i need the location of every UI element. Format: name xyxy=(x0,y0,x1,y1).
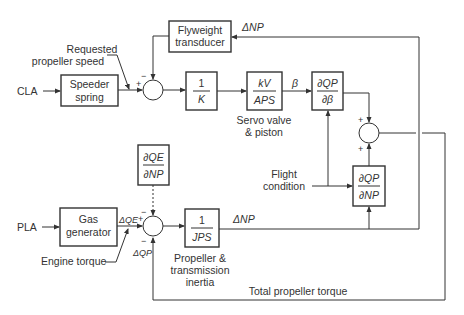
servo-valve-block: kV APS xyxy=(247,72,282,110)
speeder-spring-block: Speeder spring xyxy=(61,75,118,106)
propeller-control-block-diagram: CLA Speeder spring Requested propeller s… xyxy=(0,0,464,315)
svg-text:inertia: inertia xyxy=(186,276,215,288)
svg-text:propeller speed: propeller speed xyxy=(32,55,105,67)
svg-text:∂NP: ∂NP xyxy=(144,168,164,180)
gas-generator-block: Gas generator xyxy=(60,208,117,246)
delta-qe-label: ΔQE xyxy=(118,215,139,225)
dqp-dbeta-block: ∂QP ∂β xyxy=(312,72,343,110)
svg-text:& piston: & piston xyxy=(245,126,283,138)
servo-caption: Servo valve xyxy=(237,114,292,126)
svg-text:transmission: transmission xyxy=(171,264,230,276)
minus-sign: − xyxy=(141,71,146,81)
svg-text:∂QP: ∂QP xyxy=(359,172,379,184)
svg-text:generator: generator xyxy=(66,226,111,238)
svg-text:Flyweight: Flyweight xyxy=(178,24,222,36)
inverse-k-block: 1 K xyxy=(186,72,217,110)
svg-text:1: 1 xyxy=(199,77,205,89)
propeller-torque-summing-junction xyxy=(359,123,379,143)
inertia-block: 1 JPS xyxy=(185,209,219,247)
svg-text:∂NP: ∂NP xyxy=(359,189,379,201)
delta-qp-label: ΔQP xyxy=(132,248,152,258)
inertia-caption: Propeller & xyxy=(174,252,226,264)
svg-text:∂QE: ∂QE xyxy=(143,151,164,163)
svg-text:APS: APS xyxy=(253,94,275,106)
torque-summing-junction xyxy=(143,216,163,236)
flight-condition-label: Flight xyxy=(271,168,297,180)
minus-sign: − xyxy=(141,236,146,246)
svg-text:K: K xyxy=(198,93,206,105)
flyweight-feedback-arrow xyxy=(153,36,169,79)
plus-sign: + xyxy=(358,144,363,154)
svg-text:JPS: JPS xyxy=(191,231,211,243)
svg-text:Speeder: Speeder xyxy=(70,78,110,90)
svg-text:∂β: ∂β xyxy=(322,93,333,105)
dqp-dnp-block: ∂QP ∂NP xyxy=(353,166,385,206)
requested-speed-label: Requested xyxy=(67,43,118,55)
svg-text:condition: condition xyxy=(263,180,305,192)
plus-sign: + xyxy=(358,115,363,125)
dqp-dbeta-output-arrow xyxy=(343,93,369,122)
svg-text:Gas: Gas xyxy=(79,213,98,225)
engine-torque-label: Engine torque xyxy=(41,255,107,267)
pla-input-label: PLA xyxy=(17,221,37,233)
svg-text:kV: kV xyxy=(258,77,271,89)
cla-input-label: CLA xyxy=(17,85,37,97)
beta-label: β xyxy=(291,77,298,89)
svg-text:transducer: transducer xyxy=(175,36,225,48)
svg-text:spring: spring xyxy=(75,91,104,103)
minus-sign: − xyxy=(141,207,146,217)
delta-np-bottom-label: ΔNP xyxy=(232,213,255,225)
speed-error-summing-junction xyxy=(143,80,163,100)
total-torque-label: Total propeller torque xyxy=(249,285,348,297)
flyweight-transducer-block: Flyweight transducer xyxy=(169,21,231,52)
dqe-dnp-block: ∂QE ∂NP xyxy=(138,145,169,185)
svg-text:∂QP: ∂QP xyxy=(317,77,337,89)
delta-np-top-label: ΔNP xyxy=(241,21,264,33)
svg-text:1: 1 xyxy=(199,214,205,226)
